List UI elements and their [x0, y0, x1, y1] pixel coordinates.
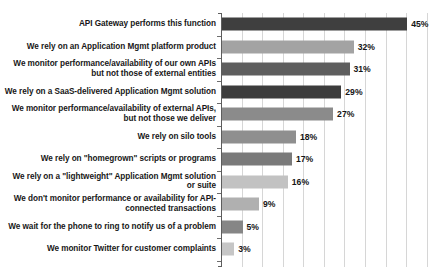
chart-row: We rely on a "lightweight" Application M…: [0, 171, 435, 194]
category-label: We rely on a "lightweight" Application M…: [4, 172, 216, 191]
chart-row: We rely on an Application Mgmt platform …: [0, 36, 435, 59]
category-label: We rely on silo tools: [4, 132, 216, 142]
category-label: We rely on "homegrown" scripts or progra…: [4, 154, 216, 164]
chart-row: We rely on silo tools18%: [0, 126, 435, 149]
bar: [222, 108, 333, 121]
bar-value-label: 17%: [296, 154, 313, 164]
bar: [222, 175, 288, 188]
bar: [222, 220, 243, 233]
bar: [222, 153, 292, 166]
bar: [222, 18, 407, 31]
category-label: API Gateway performs this function: [4, 19, 216, 29]
chart-row: We monitor performance/availability of o…: [0, 58, 435, 81]
bar: [222, 85, 341, 98]
bar-value-label: 16%: [292, 177, 309, 187]
bar-value-label: 27%: [337, 109, 354, 119]
axis-cap-bottom: [218, 266, 222, 267]
bar-value-label: 3%: [238, 244, 250, 254]
axis-tick: [217, 261, 221, 262]
bar-value-label: 32%: [358, 42, 375, 52]
chart-row: We monitor Twitter for customer complain…: [0, 238, 435, 261]
bar-value-label: 18%: [300, 132, 317, 142]
chart-row: We wait for the phone to ring to notify …: [0, 216, 435, 239]
category-label: We rely on an Application Mgmt platform …: [4, 42, 216, 52]
chart-row: We rely on "homegrown" scripts or progra…: [0, 148, 435, 171]
bar-value-label: 5%: [247, 222, 259, 232]
category-label: We don't monitor performance or availabi…: [4, 195, 216, 214]
bar-chart: API Gateway performs this function45%We …: [0, 0, 435, 280]
category-label: We wait for the phone to ring to notify …: [4, 222, 216, 232]
category-label: We rely on a SaaS-delivered Application …: [4, 87, 216, 97]
chart-row: We don't monitor performance or availabi…: [0, 193, 435, 216]
category-label: We monitor performance/availability of e…: [4, 105, 216, 124]
bar: [222, 130, 296, 143]
bar: [222, 243, 234, 256]
bar-value-label: 29%: [345, 87, 362, 97]
bar: [222, 63, 350, 76]
bar: [222, 198, 259, 211]
bar: [222, 40, 354, 53]
category-label: We monitor Twitter for customer complain…: [4, 244, 216, 254]
bar-value-label: 45%: [411, 19, 428, 29]
chart-row: API Gateway performs this function45%: [0, 13, 435, 36]
chart-row: We monitor performance/availability of e…: [0, 103, 435, 126]
chart-title-sliver: [185, 0, 295, 6]
chart-row: We rely on a SaaS-delivered Application …: [0, 81, 435, 104]
category-label: We monitor performance/availability of o…: [4, 60, 216, 79]
bar-value-label: 31%: [354, 64, 371, 74]
bar-value-label: 9%: [263, 199, 275, 209]
